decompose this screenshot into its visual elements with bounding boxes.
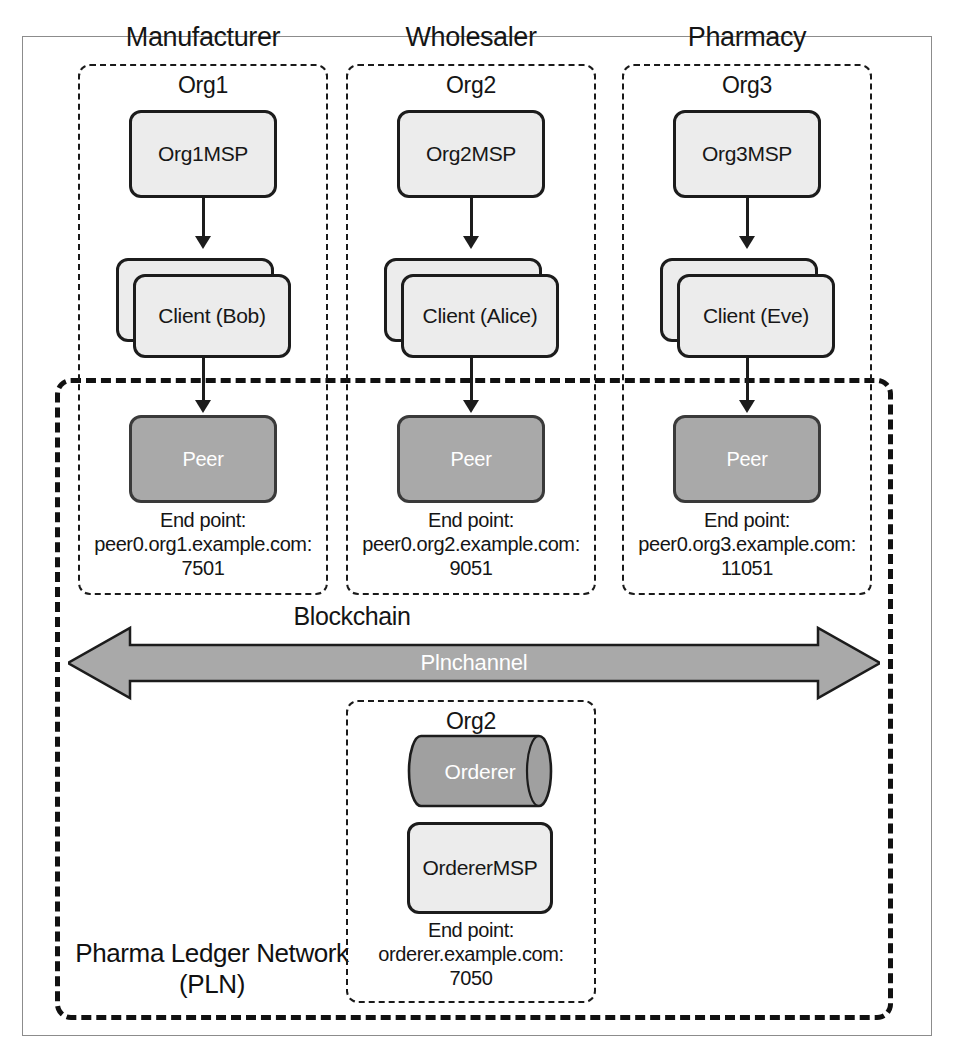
msp-node-org3[interactable]: Org3MSP xyxy=(673,110,821,198)
msp-node-org1[interactable]: Org1MSP xyxy=(129,110,277,198)
arrow-head-client-to-peer-org2 xyxy=(463,400,479,413)
endpoint-orderer-host: orderer.example.com: xyxy=(351,942,591,966)
peer-node-org1-label: Peer xyxy=(182,448,223,471)
msp-node-org2[interactable]: Org2MSP xyxy=(397,110,545,198)
endpoint-org2-port: 9051 xyxy=(351,556,591,580)
peer-node-org3[interactable]: Peer xyxy=(673,415,821,503)
pln-label-line1: Pharma Ledger Network xyxy=(62,938,362,969)
endpoint-org1-host: peer0.org1.example.com: xyxy=(83,532,323,556)
org-label-org2: Org2 xyxy=(348,72,594,99)
client-node-org3-label: Client (Eve) xyxy=(703,304,809,328)
endpoint-org3-port: 11051 xyxy=(627,556,867,580)
orderer-node[interactable]: Orderer xyxy=(407,733,553,809)
channel-arrow: Plnchannel xyxy=(68,624,880,702)
org-label-orderer-org: Org2 xyxy=(348,708,594,735)
peer-node-org1[interactable]: Peer xyxy=(129,415,277,503)
endpoint-org3-host: peer0.org3.example.com: xyxy=(627,532,867,556)
client-node-org2[interactable]: Client (Alice) xyxy=(384,258,559,358)
diagram-canvas: Pharma Ledger Network (PLN) Manufacturer… xyxy=(0,0,954,1055)
arrow-head-org2msp-to-client xyxy=(463,236,479,249)
endpoint-org1-port: 7501 xyxy=(83,556,323,580)
arrow-head-org1msp-to-client xyxy=(195,236,211,249)
client-node-org2-label: Client (Alice) xyxy=(423,304,538,328)
org-label-org3: Org3 xyxy=(624,72,870,99)
client-node-org1-label: Client (Bob) xyxy=(158,304,265,328)
msp-node-org2-label: Org2MSP xyxy=(426,142,516,166)
client-node-org1[interactable]: Client (Bob) xyxy=(116,258,291,358)
endpoint-org3: End point: peer0.org3.example.com: 11051 xyxy=(627,508,867,580)
client-node-org3[interactable]: Client (Eve) xyxy=(660,258,835,358)
arrow-head-org3msp-to-client xyxy=(739,236,755,249)
orderer-msp-node-label: OrdererMSP xyxy=(423,856,538,880)
orderer-node-label: Orderer xyxy=(407,760,553,784)
column-header-pharmacy: Pharmacy xyxy=(622,22,872,53)
arrow-head-client-to-peer-org1 xyxy=(195,400,211,413)
endpoint-org1: End point: peer0.org1.example.com: 7501 xyxy=(83,508,323,580)
endpoint-orderer-label: End point: xyxy=(351,918,591,942)
msp-node-org1-label: Org1MSP xyxy=(158,142,248,166)
pln-network-label: Pharma Ledger Network (PLN) xyxy=(62,938,362,1000)
endpoint-orderer: End point: orderer.example.com: 7050 xyxy=(351,918,591,990)
channel-arrow-label: Plnchannel xyxy=(68,650,880,676)
column-header-manufacturer: Manufacturer xyxy=(78,22,328,53)
orderer-msp-node[interactable]: OrdererMSP xyxy=(407,822,553,914)
peer-node-org2[interactable]: Peer xyxy=(397,415,545,503)
client-node-org1-front-card[interactable]: Client (Bob) xyxy=(133,274,291,358)
column-header-wholesaler: Wholesaler xyxy=(346,22,596,53)
endpoint-org3-label: End point: xyxy=(627,508,867,532)
org-label-org1: Org1 xyxy=(80,72,326,99)
endpoint-org2-label: End point: xyxy=(351,508,591,532)
msp-node-org3-label: Org3MSP xyxy=(702,142,792,166)
endpoint-orderer-port: 7050 xyxy=(351,966,591,990)
client-node-org3-front-card[interactable]: Client (Eve) xyxy=(677,274,835,358)
pln-label-line2: (PLN) xyxy=(62,969,362,1000)
arrow-head-client-to-peer-org3 xyxy=(739,400,755,413)
endpoint-org2-host: peer0.org2.example.com: xyxy=(351,532,591,556)
client-node-org2-front-card[interactable]: Client (Alice) xyxy=(401,274,559,358)
endpoint-org2: End point: peer0.org2.example.com: 9051 xyxy=(351,508,591,580)
endpoint-org1-label: End point: xyxy=(83,508,323,532)
peer-node-org2-label: Peer xyxy=(450,448,491,471)
peer-node-org3-label: Peer xyxy=(726,448,767,471)
